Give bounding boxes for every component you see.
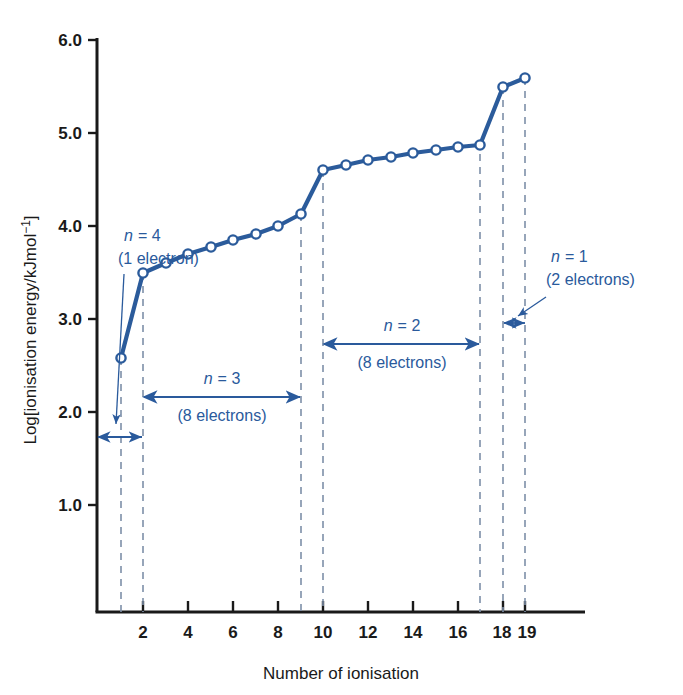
data-point-6 [228, 235, 237, 244]
ionisation-energy-chart: 6.0 5.0 4.0 3.0 2.0 1.0 2 4 6 8 10 12 [0, 0, 683, 695]
y-tick-label-4: 4.0 [58, 217, 82, 236]
data-point-14 [408, 148, 417, 157]
data-point-18 [498, 82, 507, 91]
data-point-8 [273, 221, 282, 230]
x-tick-label-19: 19 [518, 623, 537, 642]
x-tick-label-14: 14 [404, 623, 423, 642]
annotation-n2-label: n= 2 [384, 317, 421, 334]
data-point-10 [318, 165, 327, 174]
annotation-n4: n= 4 (1 electron) [98, 227, 199, 437]
x-tick-label-10: 10 [314, 623, 333, 642]
annotation-n4-sublabel: (1 electron) [118, 250, 199, 267]
chart-canvas: 6.0 5.0 4.0 3.0 2.0 1.0 2 4 6 8 10 12 [0, 0, 683, 695]
data-point-15 [431, 145, 440, 154]
data-point-1 [116, 353, 125, 362]
x-axis-title: Number of ionisation [263, 664, 419, 683]
annotation-n1-sublabel: (2 electrons) [546, 271, 635, 288]
annotation-n1-symbol: n [551, 248, 560, 265]
annotation-n4-label: n= 4 [124, 227, 161, 244]
y-tick-label-5: 5.0 [58, 124, 82, 143]
annotation-n1-leader-arrow [518, 297, 546, 316]
x-tick-label-16: 16 [449, 623, 468, 642]
y-tick-label-2: 2.0 [58, 403, 82, 422]
y-axis-title-text: Log[ionisation energy/kJmol−1] [19, 215, 40, 444]
y-tick-label-3: 3.0 [58, 310, 82, 329]
annotation-n2-value: = 2 [398, 317, 421, 334]
y-tick-label-1: 1.0 [58, 496, 82, 515]
y-tick-label-6: 6.0 [58, 31, 82, 50]
x-tick-label-6: 6 [228, 623, 237, 642]
data-point-2 [138, 268, 147, 277]
x-axis-tick-labels: 2 4 6 8 10 12 14 16 18 19 [138, 623, 536, 642]
annotation-n2-symbol: n [384, 317, 393, 334]
x-tick-label-2: 2 [138, 623, 147, 642]
data-point-11 [341, 160, 350, 169]
axis-lines [96, 38, 586, 612]
data-point-19 [520, 73, 529, 82]
data-point-5 [206, 242, 215, 251]
guide-lines [121, 78, 525, 612]
data-point-16 [453, 142, 462, 151]
y-axis-title: Log[ionisation energy/kJmol−1] [19, 215, 40, 444]
y-axis-title-bracket: ] [21, 215, 40, 220]
annotation-n3-sublabel: (8 electrons) [178, 407, 267, 424]
x-tick-label-8: 8 [273, 623, 282, 642]
y-axis-title-superscript: −1 [19, 220, 33, 234]
y-axis-title-main: Log[ionisation energy/kJmol [21, 234, 40, 445]
annotation-n1: n= 1 (2 electrons) [504, 248, 635, 323]
annotation-n3-symbol: n [204, 370, 213, 387]
data-point-17 [475, 140, 484, 149]
x-tick-label-12: 12 [359, 623, 378, 642]
annotation-n2-sublabel: (8 electrons) [358, 354, 447, 371]
annotation-n1-value: = 1 [565, 248, 588, 265]
data-point-12 [363, 155, 372, 164]
y-axis-tick-labels: 6.0 5.0 4.0 3.0 2.0 1.0 [58, 31, 82, 515]
annotation-n3-label: n= 3 [204, 370, 241, 387]
data-point-7 [251, 229, 260, 238]
annotation-n3-value: = 3 [218, 370, 241, 387]
x-axis-ticks [143, 601, 525, 612]
data-point-9 [296, 209, 305, 218]
x-tick-label-18: 18 [493, 623, 512, 642]
annotation-n1-label: n= 1 [551, 248, 588, 265]
x-tick-label-4: 4 [183, 623, 193, 642]
annotation-n4-value: = 4 [138, 227, 161, 244]
annotation-n4-symbol: n [124, 227, 133, 244]
annotation-n3: n= 3 (8 electrons) [144, 370, 300, 424]
data-point-13 [386, 152, 395, 161]
annotation-n2: n= 2 (8 electrons) [324, 317, 479, 371]
